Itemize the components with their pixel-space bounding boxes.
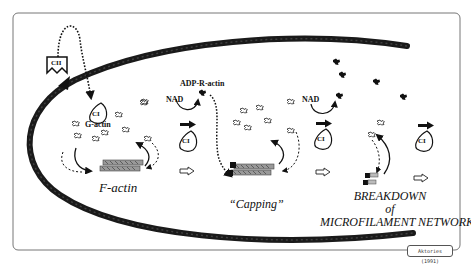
capped-filament-icon xyxy=(227,162,274,176)
f-actin-filament-icon xyxy=(100,160,143,171)
g-actin-label: G-actin xyxy=(85,120,111,129)
g-actin-cluster-1 xyxy=(72,99,152,141)
f-actin-label: F-actin xyxy=(99,180,137,196)
filament-fragment-icon xyxy=(363,173,378,185)
hollow-arrow-icon-2 xyxy=(316,168,330,176)
nad-label-2: NAD xyxy=(302,95,319,104)
nad-label-1: NAD xyxy=(166,95,183,104)
adp-r-actin-label: ADP-R-actin xyxy=(180,79,224,88)
solid-arrow-icon-2 xyxy=(316,120,332,128)
breakdown-line-3: MICROFILAMENT NETWORK xyxy=(320,216,460,229)
adp-r-actin-icon xyxy=(199,90,206,97)
ci-label-3: CI xyxy=(317,135,325,143)
ci-label-4: CI xyxy=(418,137,426,145)
cii-label: CII xyxy=(51,59,62,67)
ci-label-2: CI xyxy=(182,137,190,145)
adp-r-actin-cluster xyxy=(333,59,407,101)
breakdown-label: BREAKDOWN of MICROFILAMENT NETWORK xyxy=(320,190,460,229)
ci-label-1: CI xyxy=(92,110,100,118)
credit-label: Aktories (1991) xyxy=(407,245,453,257)
hollow-arrow-icon-3 xyxy=(414,174,428,182)
solid-arrow-icon-1 xyxy=(180,121,196,129)
capping-label: “Capping” xyxy=(229,197,284,212)
solid-arrow-icon-3 xyxy=(418,122,434,130)
hollow-arrow-icon-1 xyxy=(180,167,194,175)
